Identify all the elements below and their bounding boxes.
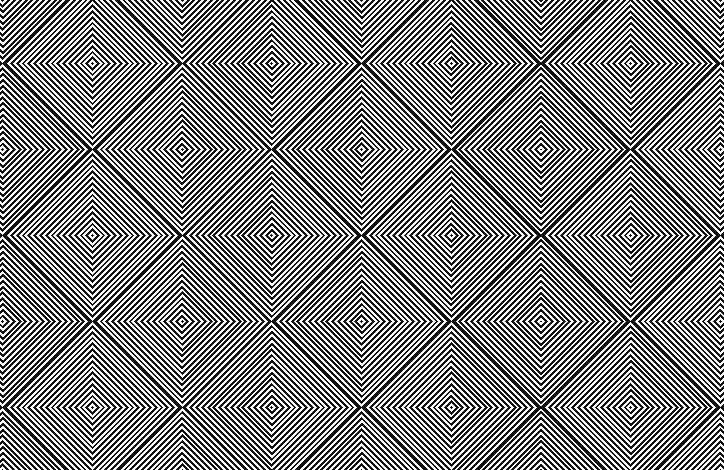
diamond-pattern-canvas: [0, 0, 724, 470]
op-art-canvas-container: Op-art concentric diamond pattern: [0, 0, 724, 470]
